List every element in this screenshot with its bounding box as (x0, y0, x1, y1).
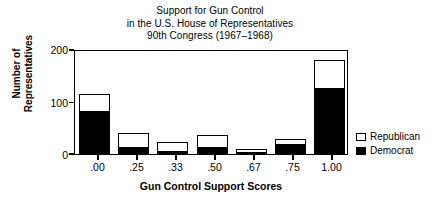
bar-group (197, 135, 228, 154)
chart-legend: Republican Democrat (356, 130, 420, 158)
bar-group (314, 60, 345, 155)
bar-segment-republican (157, 142, 188, 153)
legend-label-democrat: Democrat (370, 146, 413, 156)
legend-item-democrat: Democrat (356, 144, 420, 158)
bar-group (79, 94, 110, 154)
bar-segment-democrat (79, 112, 110, 154)
bar-group (275, 139, 306, 154)
x-tick-label-2: .33 (154, 162, 198, 173)
bar-segment-democrat (118, 148, 149, 154)
bar-segment-republican (314, 60, 345, 89)
x-tick-mark-2 (175, 155, 177, 160)
bar-segment-democrat (275, 145, 306, 154)
bar-group (236, 149, 267, 154)
bars-layer (75, 51, 347, 154)
plot-area (74, 50, 348, 155)
chart-figure: Support for Gun Control in the U.S. Hous… (0, 0, 440, 204)
x-tick-mark-5 (292, 155, 294, 160)
bar-segment-democrat (157, 152, 188, 154)
x-tick-label-3: .50 (193, 162, 237, 173)
bar-group (157, 142, 188, 154)
legend-swatch-republican (356, 133, 366, 141)
y-tick-label-200: 200 (38, 45, 68, 56)
legend-item-republican: Republican (356, 130, 420, 144)
x-tick-label-5: .75 (271, 162, 315, 173)
x-tick-label-4: .67 (232, 162, 276, 173)
x-tick-label-0: .00 (76, 162, 120, 173)
bar-segment-democrat (236, 152, 267, 154)
x-tick-mark-6 (331, 155, 333, 160)
x-tick-label-1: .25 (115, 162, 159, 173)
x-tick-mark-0 (97, 155, 99, 160)
bar-segment-democrat (197, 148, 228, 154)
legend-swatch-democrat (356, 147, 366, 155)
bar-group (118, 133, 149, 154)
bar-segment-republican (197, 135, 228, 149)
x-tick-mark-1 (136, 155, 138, 160)
y-tick-label-100: 100 (38, 98, 68, 109)
bar-segment-democrat (314, 89, 345, 154)
legend-label-republican: Republican (370, 132, 420, 142)
x-axis-title: Gun Control Support Scores (74, 180, 348, 192)
x-tick-mark-4 (253, 155, 255, 160)
y-tick-label-0: 0 (38, 150, 68, 161)
bar-segment-republican (79, 94, 110, 112)
x-tick-mark-3 (214, 155, 216, 160)
x-tick-label-6: 1.00 (310, 162, 354, 173)
bar-segment-republican (118, 133, 149, 148)
